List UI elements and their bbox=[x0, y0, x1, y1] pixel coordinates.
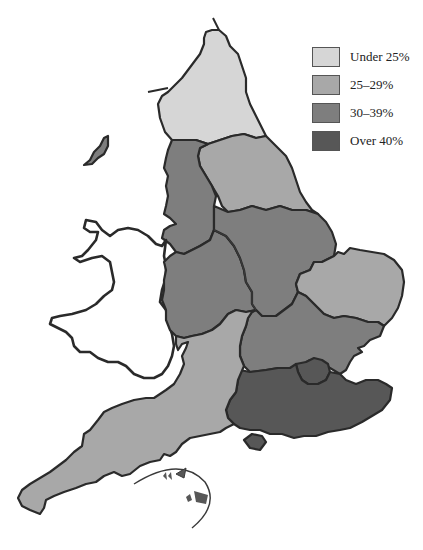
legend-item-30-39: 30–39% bbox=[312, 99, 410, 127]
legend-swatch bbox=[312, 131, 340, 151]
region-isle-of-wight[interactable] bbox=[244, 434, 266, 450]
legend-label: 30–39% bbox=[350, 105, 393, 121]
region-yorkshire-humber[interactable] bbox=[198, 134, 318, 214]
scotland-border-tick bbox=[213, 18, 219, 30]
map-legend: Under 25% 25–29% 30–39% Over 40% bbox=[312, 43, 410, 155]
legend-item-25-29: 25–29% bbox=[312, 71, 410, 99]
legend-item-over-40: Over 40% bbox=[312, 127, 410, 155]
channel-island-sark-a[interactable] bbox=[163, 472, 167, 480]
region-isle-of-man[interactable] bbox=[84, 136, 108, 165]
legend-label: Under 25% bbox=[350, 49, 410, 65]
legend-swatch bbox=[312, 47, 340, 67]
legend-swatch bbox=[312, 75, 340, 95]
legend-swatch bbox=[312, 103, 340, 123]
legend-label: 25–29% bbox=[350, 77, 393, 93]
region-north-east[interactable] bbox=[158, 30, 266, 144]
wales-outline bbox=[50, 220, 174, 378]
legend-label: Over 40% bbox=[350, 133, 403, 149]
channel-island-guernsey[interactable] bbox=[186, 494, 192, 502]
channel-island-sark-b[interactable] bbox=[168, 472, 172, 480]
legend-item-under-25: Under 25% bbox=[312, 43, 410, 71]
channel-island-jersey[interactable] bbox=[194, 491, 208, 504]
scotland-border-line bbox=[148, 88, 168, 92]
